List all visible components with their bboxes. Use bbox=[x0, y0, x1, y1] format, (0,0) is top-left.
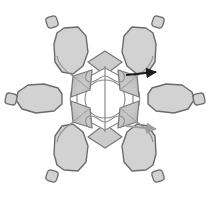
lobe-lower-left-body bbox=[54, 124, 88, 171]
diagram-canvas bbox=[0, 0, 211, 199]
lobe-left-cap-icon bbox=[4, 92, 17, 105]
lobe-upper-right bbox=[122, 15, 165, 74]
lobe-lower-right-cap-icon bbox=[151, 169, 165, 183]
sixfold-symmetric-structure-diagram bbox=[0, 0, 211, 199]
lobe-right bbox=[148, 84, 206, 113]
lobe-lower-left bbox=[45, 124, 88, 183]
lobe-upper-right-cap-icon bbox=[151, 15, 165, 29]
lobe-lower-left-cap-icon bbox=[45, 169, 59, 183]
lobe-lower-right bbox=[122, 124, 165, 183]
lobe-right-body bbox=[148, 84, 194, 113]
lobe-upper-left-body bbox=[54, 27, 88, 74]
lobe-left-body bbox=[16, 84, 62, 113]
lobe-lower-right-body bbox=[122, 124, 156, 171]
lobe-upper-right-body bbox=[122, 27, 156, 74]
lobe-upper-left-cap-icon bbox=[45, 15, 59, 29]
lobe-left bbox=[4, 84, 62, 113]
lobe-upper-left bbox=[45, 15, 88, 74]
lobe-right-cap-icon bbox=[192, 92, 205, 105]
